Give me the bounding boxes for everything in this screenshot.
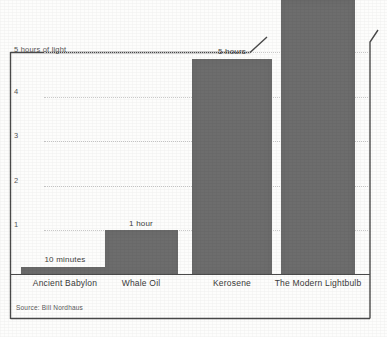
source-note: Source: Bill Nordhaus <box>16 304 83 311</box>
x-label-kerosene: Kerosene <box>213 278 251 288</box>
bar-kerosene <box>192 59 272 275</box>
bar-label-ancient-babylon: 10 minutes <box>44 255 85 264</box>
x-label-modern-lightbulb: The Modern Lightbulb <box>275 278 362 288</box>
bar-label-whale-oil: 1 hour <box>129 219 153 228</box>
frame-right-border-break <box>370 30 378 319</box>
plot-area: 5 hours of light 4 3 2 1 10 minutes 1 ho… <box>10 52 370 275</box>
chart-figure: 5 hours of light 4 3 2 1 10 minutes 1 ho… <box>0 0 387 337</box>
bar-series: 10 minutes 1 hour 5 hours <box>10 52 370 275</box>
x-label-ancient-babylon: Ancient Babylon <box>33 278 97 288</box>
x-axis-labels: Ancient Babylon Whale Oil Kerosene The M… <box>10 278 370 294</box>
bar-modern-lightbulb <box>281 0 355 275</box>
bar-whale-oil <box>105 230 178 275</box>
bar-label-kerosene: 5 hours <box>218 47 246 56</box>
x-label-whale-oil: Whale Oil <box>122 278 161 288</box>
x-axis-baseline <box>10 274 370 275</box>
